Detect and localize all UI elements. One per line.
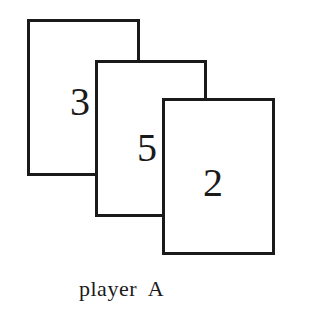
card-3: 2 <box>162 98 275 255</box>
card-3-value: 2 <box>203 163 223 203</box>
card-2-value: 5 <box>137 128 157 168</box>
card-1-value: 3 <box>70 82 90 122</box>
player-label: player A <box>79 276 164 302</box>
